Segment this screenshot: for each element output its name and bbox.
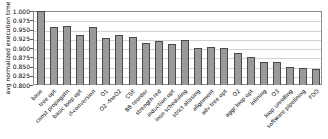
- bar: [299, 68, 307, 85]
- bar: [142, 43, 150, 85]
- y-tick-mark: [30, 30, 33, 31]
- y-tick-label: 0.975: [0, 17, 30, 24]
- y-tick-label: 0.925: [0, 35, 30, 42]
- y-tick-mark: [30, 57, 33, 58]
- plot-area: [33, 11, 322, 85]
- y-tick-label: 0.825: [0, 72, 30, 79]
- bar: [247, 57, 255, 85]
- gridline: [34, 31, 321, 32]
- bar: [273, 62, 281, 85]
- bar: [115, 35, 123, 85]
- bar: [260, 62, 268, 85]
- bar: [102, 38, 110, 85]
- y-tick-mark: [30, 85, 33, 86]
- y-tick-mark: [30, 39, 33, 40]
- bar: [50, 27, 58, 85]
- y-tick-label: 0.875: [0, 54, 30, 61]
- x-tick-label: O3: [270, 88, 280, 98]
- y-tick-mark: [30, 11, 33, 12]
- bar: [89, 27, 97, 85]
- y-tick-label: 0.850: [0, 63, 30, 70]
- bar: [155, 41, 163, 85]
- bar: [37, 11, 45, 85]
- bar: [286, 67, 294, 85]
- bar: [129, 37, 137, 85]
- bar: [312, 69, 320, 85]
- bar: [76, 35, 84, 85]
- bar: [168, 44, 176, 85]
- bar: [194, 48, 202, 85]
- bar: [220, 48, 228, 85]
- bar: [63, 26, 71, 85]
- bar: [207, 47, 215, 85]
- y-tick-mark: [30, 48, 33, 49]
- y-tick-mark: [30, 20, 33, 21]
- y-tick-label: 1.000: [0, 8, 30, 15]
- bar: [234, 53, 242, 85]
- x-tick-label: O2: [231, 88, 241, 98]
- bar-chart-figure: avg normalized execution time 1.0000.975…: [0, 0, 328, 139]
- y-tick-mark: [30, 76, 33, 77]
- gridline: [34, 21, 321, 22]
- y-tick-label: 0.950: [0, 26, 30, 33]
- y-tick-label: 0.900: [0, 45, 30, 52]
- x-tick-label: FDO: [307, 88, 320, 101]
- bar: [181, 40, 189, 85]
- y-tick-label: 0.800: [0, 82, 30, 89]
- y-tick-mark: [30, 67, 33, 68]
